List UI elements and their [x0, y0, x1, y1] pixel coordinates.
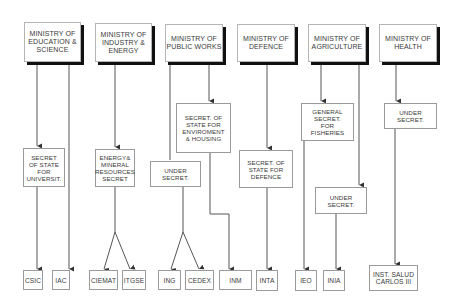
- institute-ieo: IEO: [295, 270, 317, 291]
- secretariat-energy-mineral-resources: ENERGY& MINERAL RESOURCES SECRET: [95, 149, 135, 187]
- ministry-agriculture: MINISTRY OF AGRICULTURE: [308, 24, 366, 62]
- institute-itgse: ITGSE: [122, 270, 146, 290]
- ministry-industry-energy: MINISTRY OF INDUSTRY & ENERGY: [95, 23, 152, 62]
- ministry-education-science: MINISTRY OF EDUCATION & SCIENCE: [24, 22, 81, 62]
- secretariat-state-environment-housing: SECRET. OF STATE FOR ENVIROMENT & HOUSIN…: [176, 103, 231, 153]
- undersecretariat-agriculture: UNDER SECRET.: [315, 187, 367, 214]
- ministry-public-works: MINISTRY OF PUBLIC WORKS: [165, 24, 223, 62]
- institute-salud-carlos-iii: INST. SALUD CARLOS III: [369, 265, 418, 291]
- institute-inm: INM: [219, 270, 252, 290]
- institute-csic: CSIC: [23, 270, 43, 290]
- general-secretariat-fisheries: GENERAL SECRET. FOR FISHERIES: [301, 103, 354, 141]
- secretariat-state-defence: SECRET. OF STATE FOR DEFENCE: [239, 150, 293, 188]
- institute-ciemat: CIEMAT: [89, 270, 118, 290]
- secretariat-state-universities: SECRET OF STATE FOR UNIVERSIT.: [23, 148, 65, 187]
- institute-iac: IAC: [52, 270, 70, 290]
- institute-inia: INIA: [323, 270, 345, 291]
- institute-inta: INTA: [256, 270, 278, 291]
- undersecretariat-health: UNDER SECRET.: [384, 103, 437, 129]
- institute-ing: ING: [158, 270, 181, 290]
- ministry-health: MINISTRY OF HEALTH: [379, 24, 437, 62]
- institute-cedex: CEDEX: [185, 270, 214, 290]
- undersecretariat-public-works: UNDER SECRET.: [150, 161, 201, 187]
- ministry-defence: MINISTRY OF DEFENCE: [237, 24, 295, 62]
